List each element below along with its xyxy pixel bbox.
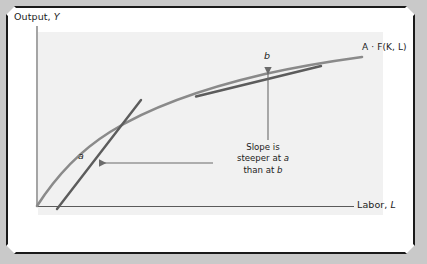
- diagram-canvas: [0, 0, 427, 264]
- annotation-line-1: Slope is: [213, 142, 313, 153]
- slope-annotation: Slope is steeper at a than at b: [213, 142, 313, 176]
- annotation-line-2: steeper at a: [213, 153, 313, 164]
- tangent-line-b: [196, 66, 321, 97]
- point-label-b: b: [264, 50, 270, 61]
- tangent-line-a: [57, 100, 141, 209]
- curve-label: A · F(K, L): [362, 42, 407, 52]
- annotation-line-3: than at b: [213, 165, 313, 176]
- x-axis-label: Labor, L: [357, 199, 396, 210]
- y-axis-label: Output, Y: [14, 11, 60, 22]
- production-function-curve: [37, 57, 362, 206]
- point-label-a: a: [78, 150, 84, 161]
